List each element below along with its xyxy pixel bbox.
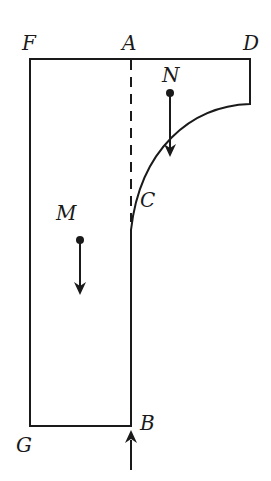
label-B: B <box>139 411 155 435</box>
label-N: N <box>161 63 181 87</box>
label-D: D <box>242 31 259 55</box>
label-F: F <box>21 31 37 55</box>
label-C: C <box>140 188 155 212</box>
shape-outline <box>30 59 250 426</box>
label-A: A <box>120 31 136 55</box>
label-G: G <box>16 433 32 457</box>
diagram-canvas: F A D N M C G B <box>0 0 271 481</box>
label-M: M <box>55 201 77 225</box>
